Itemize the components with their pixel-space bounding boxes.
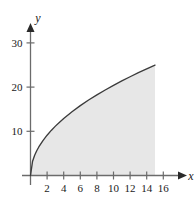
x-axis-label: x (187, 169, 194, 183)
x-axis-tick-labels: 246810121416 (44, 182, 169, 194)
y-tick-label: 30 (12, 37, 24, 49)
x-tick-label: 10 (108, 182, 120, 194)
x-tick-label: 2 (44, 182, 50, 194)
x-tick-label: 12 (125, 182, 136, 194)
y-tick-label: 10 (12, 125, 24, 137)
figure-container: 246810121416 102030 y x (0, 0, 196, 201)
y-axis-arrow-icon (27, 23, 35, 32)
y-tick-label: 20 (12, 81, 24, 93)
x-tick-label: 4 (61, 182, 67, 194)
x-tick-label: 16 (158, 182, 170, 194)
x-axis-arrow-icon (178, 172, 187, 180)
y-axis-label: y (34, 11, 41, 25)
area-chart: 246810121416 102030 y x (0, 0, 196, 201)
y-axis-tick-labels: 102030 (12, 37, 24, 137)
x-tick-label: 14 (141, 182, 153, 194)
x-tick-label: 8 (94, 182, 100, 194)
x-tick-label: 6 (78, 182, 84, 194)
shaded-area-under-curve (31, 65, 156, 175)
